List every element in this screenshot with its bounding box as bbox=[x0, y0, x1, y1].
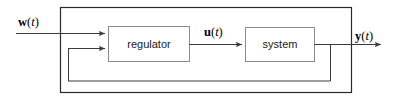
signal-u-symbol: u bbox=[204, 25, 211, 39]
signal-u-close-paren: ) bbox=[219, 25, 223, 39]
signal-label-y: y(t) bbox=[355, 29, 373, 43]
signal-w-symbol: w bbox=[18, 15, 27, 29]
block-diagram-canvas: regulator system w(t) u(t) y(t) bbox=[0, 0, 397, 101]
regulator-block-label: regulator bbox=[127, 38, 171, 50]
signal-label-u: u(t) bbox=[204, 25, 223, 39]
control-diagram: regulator system w(t) u(t) y(t) bbox=[0, 0, 397, 101]
signal-y-close-paren: ) bbox=[369, 29, 373, 43]
system-block-label: system bbox=[263, 38, 298, 50]
signal-label-w: w(t) bbox=[18, 15, 39, 29]
signal-w-close-paren: ) bbox=[35, 15, 39, 29]
